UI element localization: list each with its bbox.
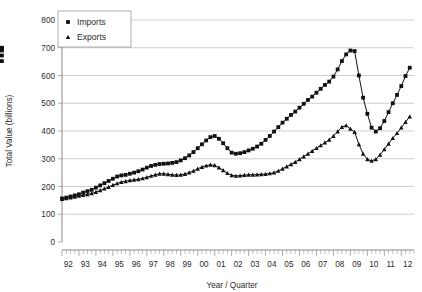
x-tick-label: 99 bbox=[183, 260, 193, 269]
x-tick-label: 93 bbox=[81, 260, 91, 269]
data-point-marker bbox=[280, 166, 284, 170]
data-point-marker bbox=[192, 150, 196, 154]
data-point-marker bbox=[221, 168, 225, 172]
data-point-marker bbox=[247, 149, 251, 153]
data-point-marker bbox=[357, 142, 361, 146]
x-axis-title: Year / Quarter bbox=[206, 281, 257, 290]
data-point-marker bbox=[323, 140, 327, 144]
legend-label-exports: Exports bbox=[77, 32, 106, 42]
data-point-marker bbox=[158, 162, 162, 166]
data-point-marker bbox=[166, 162, 170, 166]
data-point-marker bbox=[238, 151, 242, 155]
data-point-marker bbox=[365, 112, 369, 116]
data-point-marker bbox=[276, 169, 280, 173]
x-tick-label: 02 bbox=[233, 260, 243, 269]
data-point-marker bbox=[115, 175, 119, 179]
legend-label-imports: Imports bbox=[77, 17, 106, 27]
x-tick-label: 12 bbox=[403, 260, 413, 269]
data-point-marker bbox=[128, 172, 132, 176]
x-tick-label: 96 bbox=[132, 260, 142, 269]
y-axis-ticks-group: 0100200300400500600700800 bbox=[41, 16, 62, 247]
data-point-marker bbox=[242, 150, 246, 154]
data-point-marker bbox=[0, 59, 4, 63]
x-tick-label: 92 bbox=[64, 260, 74, 269]
data-point-marker bbox=[98, 183, 102, 187]
data-point-marker bbox=[306, 98, 310, 102]
data-point-marker bbox=[310, 95, 314, 99]
data-point-marker bbox=[141, 168, 145, 172]
data-point-marker bbox=[103, 181, 107, 185]
data-point-marker bbox=[327, 80, 331, 84]
data-point-marker bbox=[264, 138, 268, 142]
data-point-marker bbox=[217, 137, 221, 141]
data-point-marker bbox=[145, 166, 149, 170]
y-tick-label: 0 bbox=[50, 238, 55, 247]
y-tick-label: 600 bbox=[41, 72, 55, 81]
data-point-marker bbox=[217, 165, 221, 169]
data-point-marker bbox=[225, 146, 229, 150]
x-tick-label: 08 bbox=[335, 260, 345, 269]
chart-legend: ImportsExports bbox=[58, 11, 131, 47]
x-tick-label: 95 bbox=[115, 260, 125, 269]
data-point-marker bbox=[204, 139, 208, 143]
data-point-marker bbox=[234, 152, 238, 156]
data-point-marker bbox=[175, 160, 179, 164]
y-tick-label: 200 bbox=[41, 183, 55, 192]
data-point-marker bbox=[268, 134, 272, 138]
x-tick-label: 06 bbox=[301, 260, 311, 269]
chart-container: 0100200300400500600700800 92939495969798… bbox=[0, 0, 422, 292]
data-point-marker bbox=[348, 49, 352, 53]
data-point-marker bbox=[370, 126, 374, 130]
x-axis-ticks-group: 9293949596979899000102030405060708091011… bbox=[62, 250, 414, 269]
x-tick-label: 94 bbox=[98, 260, 108, 269]
data-point-marker bbox=[191, 169, 195, 173]
data-point-marker bbox=[302, 102, 306, 106]
data-point-marker bbox=[213, 134, 217, 138]
y-tick-label: 700 bbox=[41, 44, 55, 53]
data-point-marker bbox=[124, 173, 128, 177]
x-tick-label: 10 bbox=[369, 260, 379, 269]
data-point-marker bbox=[149, 164, 153, 168]
data-point-marker bbox=[225, 171, 229, 175]
data-point-marker bbox=[353, 49, 357, 53]
x-tick-label: 05 bbox=[284, 260, 294, 269]
data-point-marker bbox=[111, 177, 115, 181]
data-point-marker bbox=[399, 84, 403, 88]
data-point-marker bbox=[357, 74, 361, 78]
data-point-marker bbox=[132, 171, 136, 175]
data-point-marker bbox=[119, 174, 123, 178]
line-chart: 0100200300400500600700800 92939495969798… bbox=[0, 0, 422, 292]
data-point-marker bbox=[281, 121, 285, 125]
x-tick-label: 04 bbox=[267, 260, 277, 269]
data-point-marker bbox=[378, 126, 382, 130]
data-point-marker bbox=[289, 162, 293, 166]
data-point-marker bbox=[289, 113, 293, 117]
data-point-marker bbox=[255, 145, 259, 149]
data-point-marker bbox=[336, 67, 340, 71]
gridlines-group bbox=[62, 20, 414, 214]
data-point-marker bbox=[196, 146, 200, 150]
data-point-marker bbox=[259, 142, 263, 146]
data-point-marker bbox=[306, 151, 310, 155]
y-tick-label: 100 bbox=[41, 210, 55, 219]
x-tick-label: 00 bbox=[200, 260, 210, 269]
data-point-marker bbox=[0, 54, 4, 58]
data-point-marker bbox=[374, 130, 378, 134]
y-tick-label: 400 bbox=[41, 127, 55, 136]
data-point-marker bbox=[183, 156, 187, 160]
data-point-marker bbox=[344, 53, 348, 57]
data-point-marker bbox=[382, 119, 386, 123]
data-point-marker bbox=[340, 59, 344, 63]
data-point-marker bbox=[94, 186, 98, 190]
series-exports bbox=[60, 114, 412, 201]
data-point-marker bbox=[179, 159, 183, 163]
data-point-marker bbox=[323, 83, 327, 87]
data-point-marker bbox=[298, 106, 302, 110]
x-tick-label: 98 bbox=[166, 260, 176, 269]
data-point-marker bbox=[153, 163, 157, 167]
data-point-marker bbox=[0, 46, 4, 50]
data-point-marker bbox=[318, 143, 322, 147]
x-tick-label: 97 bbox=[149, 260, 159, 269]
y-tick-label: 300 bbox=[41, 155, 55, 164]
x-tick-label: 03 bbox=[250, 260, 260, 269]
